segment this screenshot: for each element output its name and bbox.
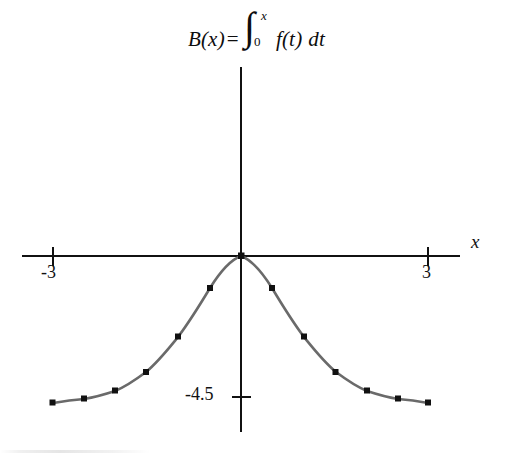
data-point — [112, 388, 118, 394]
data-point — [81, 396, 87, 402]
data-point — [238, 253, 245, 260]
data-point — [395, 396, 401, 402]
data-point — [301, 334, 307, 340]
data-point — [364, 388, 370, 394]
plot-area — [0, 0, 513, 453]
y-tick-label-neg4point5: -4.5 — [185, 384, 214, 405]
data-point — [175, 334, 181, 340]
data-point — [143, 369, 149, 375]
x-tick-label-pos3: 3 — [422, 262, 431, 283]
data-point — [207, 285, 213, 291]
x-tick-label-neg3: -3 — [41, 262, 56, 283]
data-point — [269, 285, 275, 291]
data-point — [50, 400, 56, 406]
x-axis-label: x — [471, 231, 479, 253]
data-point — [425, 400, 431, 406]
figure-container: B(x)=∫x0f(t)dt — [0, 0, 513, 453]
data-point — [333, 369, 339, 375]
